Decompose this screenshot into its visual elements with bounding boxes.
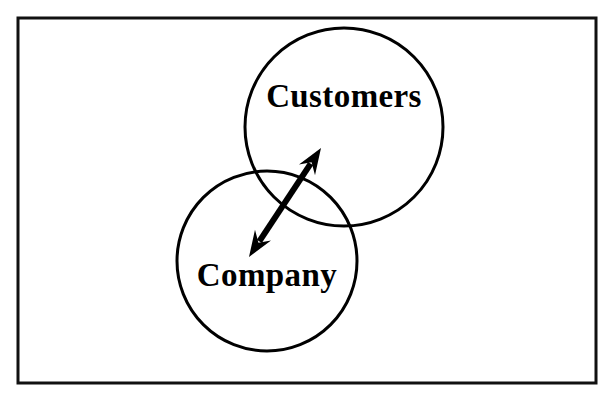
circle-label-company: Company [197,257,337,293]
diagram-canvas: Customers Company [0,0,612,403]
circle-label-customers: Customers [266,78,422,114]
venn-diagram: Customers Company [0,0,612,403]
